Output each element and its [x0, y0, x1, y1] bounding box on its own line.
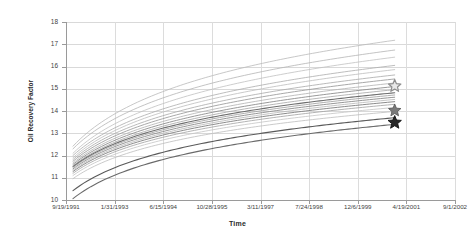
x-tick-label: 7/24/1998	[295, 204, 323, 210]
x-tick-mark	[163, 200, 164, 204]
x-tick-mark	[261, 200, 262, 204]
gridline-vertical	[163, 22, 164, 200]
y-tick-mark	[62, 133, 66, 134]
x-tick-mark	[66, 200, 67, 204]
y-tick-mark	[62, 44, 66, 45]
x-tick-label: 6/15/1994	[149, 204, 177, 210]
x-tick-label: 12/6/1999	[344, 204, 372, 210]
gridline-vertical	[115, 22, 116, 200]
x-tick-label: 9/19/1991	[52, 204, 80, 210]
x-tick-mark	[115, 200, 116, 204]
x-tick-mark	[455, 200, 456, 204]
gridline-vertical	[309, 22, 310, 200]
x-tick-label: 10/28/1995	[196, 204, 227, 210]
gridline-vertical	[406, 22, 407, 200]
y-tick-mark	[62, 89, 66, 90]
oil-recovery-chart: 101112131415161718 9/19/19911/31/19936/1…	[0, 0, 475, 241]
x-tick-mark	[212, 200, 213, 204]
x-axis-title: Time	[0, 220, 475, 227]
x-tick-mark	[358, 200, 359, 204]
x-tick-label: 9/1/2002	[443, 204, 467, 210]
y-tick-mark	[62, 156, 66, 157]
gridline-vertical	[358, 22, 359, 200]
y-tick-mark	[62, 178, 66, 179]
y-tick-mark	[62, 111, 66, 112]
gridline-vertical	[455, 22, 456, 200]
y-tick-mark	[62, 22, 66, 23]
gridline-vertical	[261, 22, 262, 200]
y-tick-mark	[62, 67, 66, 68]
x-tick-label: 4/19/2001	[393, 204, 421, 210]
y-axis-title-wrap: Oil Recovery Factor	[8, 22, 22, 200]
plot-area	[66, 22, 455, 200]
x-tick-label: 3/11/1997	[247, 204, 274, 210]
x-tick-mark	[309, 200, 310, 204]
gridline-vertical	[212, 22, 213, 200]
y-axis-line	[66, 22, 67, 200]
x-tick-mark	[406, 200, 407, 204]
x-tick-label: 1/31/1993	[101, 204, 129, 210]
y-axis-title: Oil Recovery Factor	[27, 41, 34, 181]
